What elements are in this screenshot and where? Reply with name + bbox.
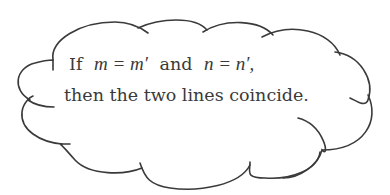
- math-expression-n: n = n′,: [204, 53, 254, 74]
- if-word: If: [69, 54, 82, 74]
- statement-line-1: If m = m′ and n = n′,: [69, 53, 254, 75]
- and-word: and: [159, 54, 192, 74]
- math-expression-m: m = m′: [94, 53, 148, 74]
- statement: If m = m′ and n = n′, then the two lines…: [0, 0, 390, 195]
- statement-line-2: then the two lines coincide.: [64, 85, 309, 105]
